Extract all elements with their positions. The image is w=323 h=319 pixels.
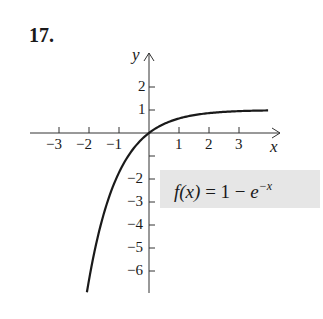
x-tick-label: 2 — [205, 137, 213, 152]
formula-exponent: −x — [259, 179, 272, 193]
y-axis-label: y — [132, 46, 140, 63]
y-tick-label: −4 — [127, 217, 143, 232]
formula-lhs: f(x) — [174, 181, 200, 202]
formula-base: e — [250, 181, 258, 202]
x-axis-label: x — [270, 138, 278, 155]
x-tick-label: −3 — [46, 137, 62, 152]
y-axis — [144, 53, 154, 293]
y-tick-label: −5 — [127, 240, 143, 255]
y-tick-label: −2 — [127, 171, 143, 186]
formula-eq: = 1 − — [200, 181, 250, 202]
x-tick-label: −1 — [106, 137, 122, 152]
x-tick-label: 1 — [175, 137, 183, 152]
formula-box: f(x) = 1 − e−x — [160, 170, 320, 208]
y-tick-label: −3 — [127, 194, 143, 209]
x-tick-label: −2 — [76, 137, 92, 152]
y-tick-label: 1 — [138, 102, 146, 117]
x-tick-label: 3 — [235, 137, 243, 152]
function-formula: f(x) = 1 − e−x — [174, 179, 272, 203]
y-tick-label: 2 — [138, 79, 146, 94]
y-tick-label: −6 — [127, 263, 143, 278]
plot-area — [0, 0, 323, 319]
